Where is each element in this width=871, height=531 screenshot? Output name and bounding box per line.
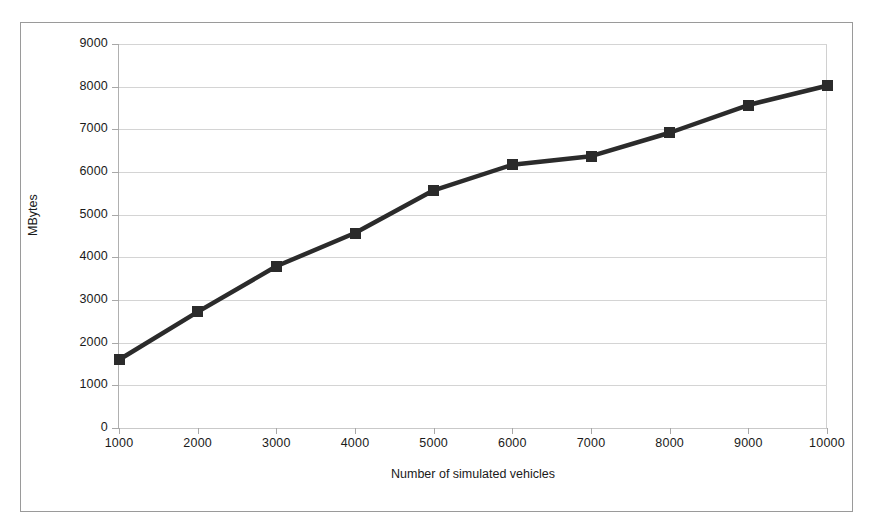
y-axis-title: MBytes <box>26 194 40 236</box>
data-point-marker <box>350 228 361 239</box>
x-axis-tick-label: 2000 <box>158 436 238 450</box>
chart-figure: 0100020003000400050006000700080009000 10… <box>0 0 871 531</box>
x-axis-tick <box>591 428 592 434</box>
data-point-marker <box>428 185 439 196</box>
x-axis-tick-label: 5000 <box>394 436 474 450</box>
x-axis-tick-label: 6000 <box>472 436 552 450</box>
y-axis-tick <box>112 87 119 88</box>
y-axis-tick-label: 3000 <box>79 292 108 306</box>
gridline <box>119 343 827 344</box>
gridline <box>119 44 827 45</box>
x-axis-tick-label: 3000 <box>236 436 316 450</box>
y-axis-tick-label: 0 <box>101 420 108 434</box>
x-axis-title: Number of simulated vehicles <box>119 467 827 481</box>
data-point-marker <box>822 80 833 91</box>
x-axis-tick <box>827 428 828 434</box>
x-axis-tick <box>276 428 277 434</box>
gridline <box>119 300 827 301</box>
gridline <box>119 385 827 386</box>
x-axis-tick-label: 9000 <box>708 436 788 450</box>
x-axis-tick-label: 7000 <box>551 436 631 450</box>
x-axis-tick <box>434 428 435 434</box>
gridline <box>119 215 827 216</box>
y-axis-tick <box>112 343 119 344</box>
data-point-marker <box>507 159 518 170</box>
y-axis-tick <box>112 257 119 258</box>
y-axis-tick <box>112 215 119 216</box>
y-axis-tick-label: 6000 <box>79 164 108 178</box>
data-point-marker <box>192 306 203 317</box>
gridline <box>119 257 827 258</box>
x-axis-tick <box>198 428 199 434</box>
x-axis-tick <box>512 428 513 434</box>
x-axis-tick-label: 1000 <box>79 436 159 450</box>
data-point-marker <box>743 100 754 111</box>
y-axis-tick <box>112 385 119 386</box>
gridline <box>119 87 827 88</box>
x-axis-tick-label: 8000 <box>630 436 710 450</box>
x-axis-tick <box>119 428 120 434</box>
y-axis-tick-label: 1000 <box>79 377 108 391</box>
gridline <box>119 428 827 429</box>
x-axis-tick-label: 10000 <box>787 436 867 450</box>
plot-area <box>119 44 827 428</box>
data-point-marker <box>586 151 597 162</box>
data-point-marker <box>664 127 675 138</box>
y-axis-tick <box>112 300 119 301</box>
x-axis-tick <box>748 428 749 434</box>
x-axis-tick-label: 4000 <box>315 436 395 450</box>
y-axis-tick-label: 8000 <box>79 79 108 93</box>
y-axis-tick-label: 4000 <box>79 249 108 263</box>
y-axis-tick-label: 5000 <box>79 207 108 221</box>
x-axis-tick <box>670 428 671 434</box>
y-axis-tick-label: 9000 <box>79 36 108 50</box>
y-axis-tick <box>112 428 119 429</box>
y-axis-tick <box>112 44 119 45</box>
y-axis-tick-label: 7000 <box>79 121 108 135</box>
data-point-marker <box>114 354 125 365</box>
x-axis-tick <box>355 428 356 434</box>
data-point-marker <box>271 261 282 272</box>
gridline <box>119 129 827 130</box>
y-axis-tick-label: 2000 <box>79 335 108 349</box>
y-axis-tick <box>112 129 119 130</box>
gridline <box>119 172 827 173</box>
y-axis-tick <box>112 172 119 173</box>
